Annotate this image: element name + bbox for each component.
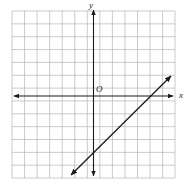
coordinate-plane-figure: y x O bbox=[0, 0, 189, 189]
x-axis-label: x bbox=[179, 91, 183, 100]
graph-canvas bbox=[0, 0, 189, 189]
plotted-line bbox=[71, 76, 171, 175]
y-axis-label: y bbox=[89, 1, 93, 10]
origin-label: O bbox=[96, 85, 103, 94]
